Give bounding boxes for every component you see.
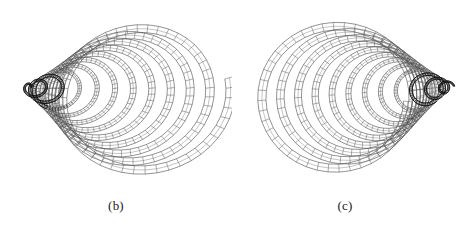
panel-c-wireframe-svg (232, 0, 458, 196)
panel-b-caption: (b) (0, 198, 232, 213)
panel-b-wireframe-svg (0, 0, 232, 196)
panel-c-caption: (c) (232, 198, 458, 213)
figure-root: (b) (c) (0, 0, 458, 227)
figure-panel-c: (c) (232, 0, 458, 227)
panel-b-coil-geometry (24, 25, 232, 174)
panel-c-illustration (232, 0, 458, 196)
figure-panel-b: (b) (0, 0, 232, 227)
panel-c-coil-geometry (258, 22, 455, 172)
panel-b-illustration (0, 0, 232, 196)
